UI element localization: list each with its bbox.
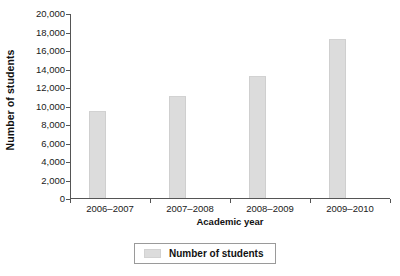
x-axis-tick-labels: 2006–20072007–20082008–20092009–2010 xyxy=(70,201,390,217)
y-axis-tick-label: 16,000 xyxy=(36,46,65,56)
y-axis-tick xyxy=(66,181,70,182)
y-axis-tick xyxy=(66,14,70,15)
y-axis-tick xyxy=(66,70,70,71)
y-axis-tick-label: 14,000 xyxy=(36,65,65,75)
legend-swatch-number-of-students xyxy=(144,249,161,258)
bar-2007-2008 xyxy=(169,96,186,198)
y-axis-tick-label: 8,000 xyxy=(41,120,65,130)
y-axis-tick-label: 6,000 xyxy=(41,139,65,149)
y-axis-tick-label: 2,000 xyxy=(41,176,65,186)
y-axis-line xyxy=(70,14,71,199)
y-axis-tick-label: 20,000 xyxy=(36,9,65,19)
bar-2006-2007 xyxy=(89,111,106,198)
y-axis-title-text: Number of students xyxy=(4,50,16,151)
y-axis-tick xyxy=(66,88,70,89)
x-axis-tick-label: 2009–2010 xyxy=(326,204,374,214)
y-axis-tick-label: 12,000 xyxy=(36,83,65,93)
bar-2008-2009 xyxy=(249,76,266,198)
y-axis-tick xyxy=(66,125,70,126)
bar-chart: Number of students 02,0004,0006,0008,000… xyxy=(0,0,400,276)
y-axis-tick-label: 10,000 xyxy=(36,102,65,112)
y-axis-title: Number of students xyxy=(2,0,18,200)
x-axis-title: Academic year xyxy=(70,216,390,227)
x-axis-tick-label: 2008–2009 xyxy=(246,204,294,214)
x-axis-tick-label: 2006–2007 xyxy=(86,204,134,214)
plot-area xyxy=(70,14,390,199)
y-axis-tick-label: 4,000 xyxy=(41,157,65,167)
bar-2009-2010 xyxy=(329,39,346,198)
x-axis-tick xyxy=(390,199,391,203)
chart-legend: Number of students xyxy=(134,243,276,264)
y-axis-tick xyxy=(66,107,70,108)
y-axis-tick-labels: 02,0004,0006,0008,00010,00012,00014,0001… xyxy=(18,0,68,205)
y-axis-tick xyxy=(66,33,70,34)
y-axis-tick-label: 0 xyxy=(60,194,65,204)
legend-label-number-of-students: Number of students xyxy=(169,248,263,259)
x-axis-tick-label: 2007–2008 xyxy=(166,204,214,214)
y-axis-tick xyxy=(66,51,70,52)
y-axis-tick xyxy=(66,162,70,163)
y-axis-tick xyxy=(66,144,70,145)
y-axis-tick-label: 18,000 xyxy=(36,28,65,38)
